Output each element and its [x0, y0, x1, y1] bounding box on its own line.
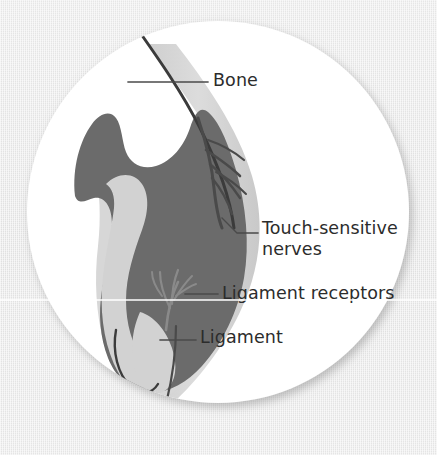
label-bone: Bone: [213, 70, 258, 91]
label-ligament-receptors: Ligament receptors: [222, 283, 395, 304]
figure-page: Bone Touch-sensitive nerves Ligament rec…: [0, 0, 437, 455]
label-touch-sensitive-nerves: Touch-sensitive nerves: [262, 218, 398, 261]
label-ligament: Ligament: [200, 327, 283, 348]
anatomical-figure: Bone Touch-sensitive nerves Ligament rec…: [0, 0, 437, 455]
